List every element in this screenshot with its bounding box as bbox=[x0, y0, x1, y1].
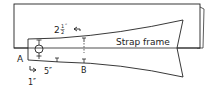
arrow-right-icon bbox=[30, 66, 36, 72]
point-a-label: A bbox=[17, 54, 24, 64]
dim-left-label: 1″ bbox=[28, 78, 36, 87]
strap-frame-diagram: 2 1 2 ″ Strap frame A B 5″ 1″ bbox=[0, 0, 216, 91]
dim-top-whole: 2 bbox=[54, 25, 60, 35]
dim-bottom-label: 5″ bbox=[44, 67, 52, 76]
point-b-label: B bbox=[81, 66, 87, 75]
svg-text:2: 2 bbox=[61, 29, 64, 35]
strap-frame-label: Strap frame bbox=[116, 37, 170, 47]
